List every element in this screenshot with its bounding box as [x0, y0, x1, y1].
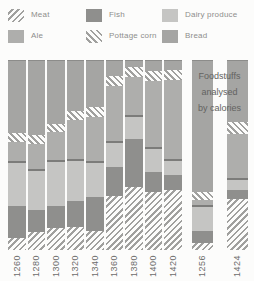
x-label-cell: 1340	[86, 252, 104, 280]
pottage-hatch-swatch-icon	[86, 30, 102, 43]
bread-swatch-icon	[162, 30, 178, 43]
legend-label-ale: Ale	[31, 29, 43, 41]
x-label-cell: 1300	[47, 252, 65, 280]
segment-fish	[227, 190, 248, 199]
segment-pottage-corn	[67, 111, 85, 121]
segment-ale	[86, 117, 104, 160]
segment-dairy-produce	[47, 160, 65, 206]
ale-swatch-icon	[8, 30, 24, 43]
legend-item-meat: Meat	[8, 8, 86, 22]
segment-pottage-corn	[47, 124, 65, 132]
segment-dairy-produce	[86, 161, 104, 197]
dairy-swatch-icon	[162, 9, 178, 22]
x-label-cell: 1420	[164, 252, 182, 280]
segment-fish	[67, 201, 85, 227]
calories-note-line: analysed	[185, 84, 254, 100]
segment-dairy-produce	[106, 141, 124, 167]
calories-note-line: by calories	[185, 100, 254, 116]
segment-pottage-corn	[145, 71, 163, 81]
x-label-cell: 1360	[106, 252, 124, 280]
x-label-cell: 1424	[227, 252, 248, 280]
segment-pottage-corn	[86, 107, 104, 117]
segment-dairy-produce	[67, 159, 85, 202]
bar-1380	[125, 60, 143, 250]
segment-pottage-corn	[125, 67, 143, 77]
x-label-cell: 1320	[67, 252, 85, 280]
x-label-cell: 1256	[192, 252, 213, 280]
year-label-1420: 1420	[168, 255, 178, 277]
legend-label-dairy: Dairy produce	[185, 8, 237, 20]
segment-bread	[8, 61, 26, 133]
year-label-1360: 1360	[109, 255, 119, 277]
segment-ale	[28, 144, 46, 169]
segment-pottage-corn	[8, 133, 26, 142]
segment-bread	[164, 61, 182, 70]
segment-fish	[106, 167, 124, 197]
bar-1260	[8, 60, 26, 250]
segment-dairy-produce	[28, 169, 46, 211]
segment-fish	[47, 206, 65, 229]
segment-bread	[145, 61, 163, 71]
calories-note-line: Foodstuffs	[185, 68, 254, 84]
segment-meat	[28, 232, 46, 250]
segment-pottage-corn	[28, 135, 46, 144]
segment-dairy-produce	[227, 178, 248, 190]
segment-ale	[227, 134, 248, 177]
legend-item-bread: Bread	[162, 29, 252, 43]
segment-fish	[145, 172, 163, 192]
segment-dairy-produce	[145, 147, 163, 172]
segment-meat	[8, 238, 26, 250]
segment-dairy-produce	[125, 115, 143, 139]
chart-legend: Meat Fish Dairy produce Ale Pottage corn…	[8, 8, 252, 43]
segment-bread	[28, 61, 46, 135]
bar-1320	[67, 60, 85, 250]
segment-ale	[67, 120, 85, 159]
legend-label-fish: Fish	[109, 8, 125, 20]
calories-note: Foodstuffs analysed by calories	[185, 68, 254, 116]
segment-fish	[8, 206, 26, 238]
segment-fish	[192, 231, 213, 243]
segment-ale	[125, 77, 143, 116]
x-label-cell: 1280	[28, 252, 46, 280]
segment-ale	[145, 81, 163, 147]
fish-swatch-icon	[86, 9, 102, 22]
segment-fish	[125, 139, 143, 186]
segment-pottage-corn	[227, 122, 248, 134]
year-label-1300: 1300	[51, 255, 61, 277]
x-axis-labels: 1260128013001320134013601380140014201256…	[8, 252, 248, 281]
segment-dairy-produce	[192, 205, 213, 231]
year-label-1424: 1424	[232, 255, 242, 277]
segment-dairy-produce	[8, 161, 26, 207]
segment-fish	[28, 210, 46, 232]
segment-ale	[106, 86, 124, 141]
segment-bread	[67, 61, 85, 111]
segment-pottage-corn	[192, 192, 213, 201]
segment-pottage-corn	[164, 70, 182, 80]
segment-fish	[164, 175, 182, 190]
x-label-cell: 1260	[8, 252, 26, 280]
segment-meat	[106, 196, 124, 249]
year-label-1340: 1340	[90, 255, 100, 277]
bar-1340	[86, 60, 104, 250]
year-label-1320: 1320	[70, 255, 80, 277]
segment-bread	[47, 61, 65, 124]
year-label-1256: 1256	[197, 255, 207, 277]
segment-meat	[192, 243, 213, 250]
legend-item-ale: Ale	[8, 29, 86, 43]
bar-1360	[106, 60, 124, 250]
foodstuffs-chart: Meat Fish Dairy produce Ale Pottage corn…	[0, 0, 254, 281]
segment-dairy-produce	[164, 159, 182, 175]
segment-meat	[145, 192, 163, 250]
year-label-1260: 1260	[12, 255, 22, 277]
segment-ale	[8, 142, 26, 161]
segment-ale	[164, 80, 182, 159]
meat-hatch-swatch-icon	[8, 9, 24, 22]
legend-item-fish: Fish	[86, 8, 162, 22]
segment-bread	[86, 61, 104, 107]
year-label-1280: 1280	[31, 255, 41, 277]
legend-item-dairy: Dairy produce	[162, 8, 252, 22]
legend-label-pottage-corn: Pottage corn	[109, 29, 157, 41]
x-label-cell: 1400	[145, 252, 163, 280]
segment-meat	[227, 199, 248, 250]
bar-1420	[164, 60, 182, 250]
